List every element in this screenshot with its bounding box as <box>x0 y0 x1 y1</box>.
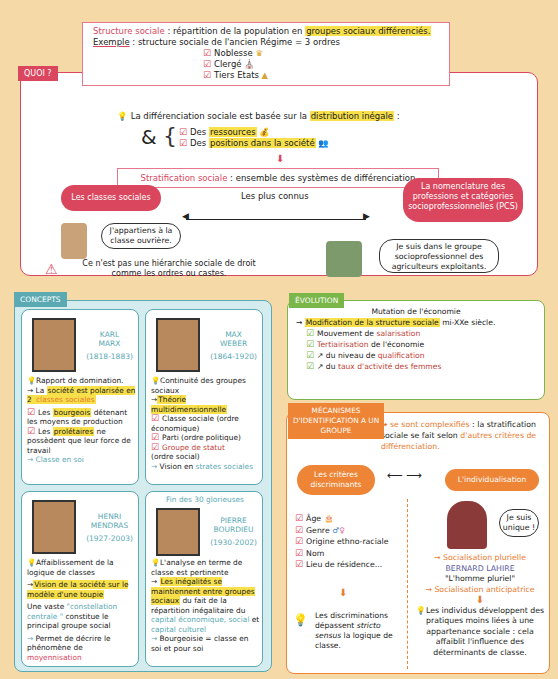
section-label-concepts: CONCEPTS <box>14 292 67 307</box>
arrow-down-icon: ⬇ <box>413 595 547 606</box>
cake-icon: 🎂 <box>324 514 334 523</box>
structure-definition: Structure sociale : répartition de la po… <box>93 26 439 37</box>
checkbox-icon: ☑ <box>203 70 211 80</box>
section-label-evolution: ÉVOLUTION <box>289 293 344 308</box>
stratification-definition: Stratification sociale : ensemble des sy… <box>117 168 439 188</box>
author-name: PIERREBOURDIEU(1930-2002) <box>206 516 261 547</box>
money-bag-icon: 💰 <box>259 127 270 137</box>
crown-icon: ♛ <box>255 48 263 58</box>
card-weber: MAXWEBER(1864-1920) 💡Continuité des grou… <box>145 309 263 485</box>
author-name: MAXWEBER(1864-1920) <box>206 330 261 361</box>
individualisation-bubble: L'individualisation <box>445 469 539 491</box>
checkbox-icon: ☑ <box>151 442 159 452</box>
orders-list: ☑Noblesse ♛ ☑Clergé ⛪ ☑Tiers Etats ▲ <box>203 48 439 81</box>
rising-arrow-icon: ↗ <box>317 351 326 360</box>
arrow-down-icon: ⬇ <box>276 153 284 164</box>
hierarchy-icon: 👥 <box>318 138 329 148</box>
evolution-item: ☑↗ du taux d'activité des femmes <box>306 361 536 372</box>
checkbox-icon: ☑ <box>151 413 159 423</box>
evolution-item: ☑↗ du niveau de qualification <box>306 350 536 361</box>
arrow-down-icon: ⬇ <box>339 587 347 598</box>
church-icon: ⛪ <box>244 59 255 69</box>
criteria-item: ☑Âge 🎂 <box>295 513 389 525</box>
lightbulb-icon: 💡 <box>27 376 36 385</box>
warning-text: Ce n'est pas une hiérarchie sociale de d… <box>69 259 269 279</box>
young-man-avatar <box>447 501 487 549</box>
criteres-bubble: Les critères discriminants <box>297 465 375 495</box>
mecanismes-section: ➡ se sont complexifiés : la stratificati… <box>286 412 550 674</box>
checkbox-icon: ☑ <box>203 59 211 69</box>
criteria-item: ☑Origine ethno-raciale <box>295 536 389 548</box>
weber-portrait <box>156 318 200 372</box>
individualisation-content: → Socialisation plurielle BERNARD LAHIRE… <box>413 553 547 658</box>
checkbox-icon: ☑ <box>295 525 303 535</box>
order-item: ☑Noblesse ♛ <box>203 48 439 59</box>
evolution-item: ☑Tertiairisation de l'économie <box>306 339 536 350</box>
lightbulb-icon: 💡 <box>293 613 308 627</box>
lightbulb-icon: 💡 <box>151 558 160 567</box>
checkbox-icon: ☑ <box>306 339 314 349</box>
criteria-list: ☑Âge 🎂 ☑Genre ♂♀ ☑Origine ethno-raciale … <box>295 513 389 571</box>
criteria-item: ☑Genre ♂♀ <box>295 525 389 537</box>
quoi-section: 💡 La différenciation sociale est basée s… <box>20 72 538 276</box>
divider <box>407 499 408 669</box>
mendras-portrait <box>32 500 76 554</box>
author-name: HENRIMENDRAS(1927-2003) <box>82 512 137 543</box>
card-header: Fin des 30 glorieuses <box>146 495 264 505</box>
section-label-mecanismes: MÉCANISMES D'IDENTIFICATION A UN GROUPE <box>288 403 384 439</box>
checkbox-icon: ☑ <box>27 426 35 436</box>
arrow-left-icon: ◀ <box>182 211 189 221</box>
checkbox-icon: ☑ <box>203 48 211 58</box>
haystack-icon: ▲ <box>262 70 269 80</box>
checkbox-icon: ☑ <box>295 559 303 569</box>
criteria-item: ☑Nom <box>295 548 389 560</box>
checkbox-icon: ☑ <box>306 328 314 338</box>
checkbox-icon: ☑ <box>295 548 303 558</box>
section-label-quoi: QUOI ? <box>18 66 58 81</box>
evolution-section: Mutation de l'économie → Modification de… <box>287 300 545 400</box>
card-mendras: HENRIMENDRAS(1927-2003) 💡Affaiblissement… <box>21 491 139 667</box>
speech-bubble-unique: Je suis unique ! <box>499 509 539 537</box>
differentiation-line: 💡 La différenciation sociale est basée s… <box>117 111 400 121</box>
checkbox-icon: ☑ <box>306 361 314 371</box>
distribution-items: ☑Des ressources 💰 ☑Des positions dans la… <box>179 127 329 149</box>
lightbulb-icon: 💡 <box>151 376 160 385</box>
rising-arrow-icon: ↗ <box>317 362 326 371</box>
farmer-avatar <box>326 241 362 277</box>
card-bourdieu: Fin des 30 glorieuses PIERREBOURDIEU(193… <box>145 491 263 667</box>
structure-definition-box: Structure sociale : répartition de la po… <box>82 22 450 86</box>
checkbox-icon: ☑ <box>295 513 303 523</box>
card-marx: KARLMARX(1818-1883) 💡Rapport de dominati… <box>21 309 139 485</box>
checkbox-icon: ☑ <box>27 407 35 417</box>
female-icon: ♀ <box>339 526 345 535</box>
worker-woman-avatar <box>61 223 87 259</box>
arrow-right-icon: ▶ <box>363 211 370 221</box>
marx-portrait <box>32 318 76 372</box>
structure-example: Exemple : structure sociale de l'ancien … <box>93 37 439 48</box>
most-known-label: Les plus connus <box>241 191 309 201</box>
order-item: ☑Clergé ⛪ <box>203 59 439 70</box>
checkbox-icon: ☑ <box>295 536 303 546</box>
checkbox-icon: ☑ <box>179 127 187 137</box>
author-name: KARLMARX(1818-1883) <box>82 330 137 361</box>
split-arrow: ◀ ▶ <box>186 205 366 220</box>
distribution-item: ☑Des ressources 💰 <box>179 127 329 138</box>
checkbox-icon: ☑ <box>151 432 159 442</box>
brace: { <box>163 123 177 148</box>
mecanismes-intro: ➡ se sont complexifiés : la stratificati… <box>381 419 546 452</box>
speech-bubble-left: J'appartiens à la classe ouvrière. <box>101 223 181 249</box>
split-arrows-icon: ⟵ ⟶ <box>387 469 422 482</box>
distribution-item: ☑Des positions dans la société 👥 <box>179 138 329 149</box>
author-name: BERNARD LAHIRE <box>413 564 547 575</box>
marx-content: 💡Rapport de domination. → La société est… <box>27 376 137 465</box>
bourdieu-portrait <box>156 508 200 556</box>
lightbulb-icon: 💡 <box>416 606 426 615</box>
pcs-bubble: La nomenclature des professions et catég… <box>403 178 523 222</box>
bourdieu-content: 💡L'analyse en terme de classe est pertin… <box>151 558 261 653</box>
classes-sociales-bubble: Les classes sociales <box>61 185 161 211</box>
lightbulb-icon: 💡 <box>117 111 128 121</box>
order-item: ☑Tiers Etats ▲ <box>203 70 439 81</box>
speech-bubble-right: Je suis dans le groupe socioprofessionne… <box>379 239 499 273</box>
mendras-content: 💡Affaiblissement de la logique de classe… <box>27 558 137 662</box>
lightbulb-icon: 💡 <box>27 558 36 567</box>
